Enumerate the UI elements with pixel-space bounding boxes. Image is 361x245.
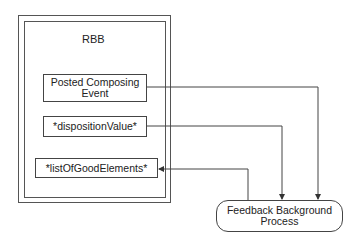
edge-disposition-to-feedback (147, 126, 282, 199)
connector-layer (0, 0, 361, 245)
edge-feedback-to-goodlist (159, 169, 248, 200)
edge-posted-to-feedback (147, 87, 318, 199)
